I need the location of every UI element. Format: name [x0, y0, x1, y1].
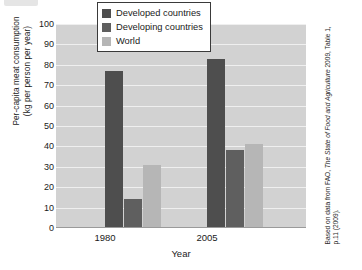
bar-2005-world[interactable] — [245, 144, 263, 228]
bar-2005-developed[interactable] — [207, 59, 225, 228]
y-tick-0: 0 — [49, 224, 54, 233]
legend-swatch-icon-developed — [102, 9, 111, 18]
bar-2005-developing[interactable] — [226, 150, 244, 228]
bar-1980-world[interactable] — [143, 165, 161, 228]
gridline-40 — [56, 146, 306, 147]
gridline-20 — [56, 187, 306, 188]
gridline-30 — [56, 167, 306, 168]
bar-group-1980 — [105, 24, 163, 228]
bar-group-2005 — [207, 24, 265, 228]
y-tick-20: 20 — [44, 183, 54, 192]
gridline-10 — [56, 208, 306, 209]
legend: Developed countries Developing countries… — [97, 2, 211, 52]
x-tick-label-2005: 2005 — [177, 232, 237, 243]
gridline-80 — [56, 65, 306, 66]
y-tick-60: 60 — [44, 102, 54, 111]
credit-prefix: Based on data from FAO, — [324, 168, 331, 244]
y-axis-tick-labels: 100 90 80 70 60 50 40 30 20 10 0 — [22, 24, 54, 228]
y-tick-70: 70 — [44, 81, 54, 90]
y-tick-10: 10 — [44, 204, 54, 213]
legend-item-developed[interactable]: Developed countries — [102, 6, 203, 20]
y-tick-80: 80 — [44, 61, 54, 70]
y-tick-40: 40 — [44, 142, 54, 151]
legend-item-developing[interactable]: Developing countries — [102, 20, 203, 34]
gridline-70 — [56, 85, 306, 86]
plot-area — [56, 24, 306, 228]
gridlines — [56, 24, 306, 228]
x-axis-title: Year — [56, 248, 306, 259]
legend-label-developing: Developing countries — [116, 22, 203, 32]
legend-item-world[interactable]: World — [102, 34, 203, 48]
legend-label-developed: Developed countries — [116, 8, 201, 18]
x-axis-line — [56, 227, 306, 228]
y-tick-50: 50 — [44, 122, 54, 131]
y-axis-title-line1: Per-capita meat consumption — [12, 16, 21, 125]
source-credit: Based on data from FAO, The State of Foo… — [324, 12, 341, 244]
legend-swatch-icon-developing — [102, 23, 111, 32]
credit-italic-title: The State of Food and Agriculture — [324, 69, 331, 168]
y-tick-90: 90 — [44, 40, 54, 49]
y-tick-30: 30 — [44, 163, 54, 172]
chart-figure: Per-capita meat consumption (kg per pers… — [0, 0, 362, 270]
gridline-60 — [56, 106, 306, 107]
legend-swatch-icon-world — [102, 37, 111, 46]
bar-1980-developed[interactable] — [105, 71, 123, 228]
gridline-50 — [56, 126, 306, 127]
legend-label-world: World — [116, 36, 140, 46]
x-tick-label-1980: 1980 — [75, 232, 135, 243]
y-tick-100: 100 — [39, 20, 54, 29]
bar-1980-developing[interactable] — [124, 199, 142, 228]
